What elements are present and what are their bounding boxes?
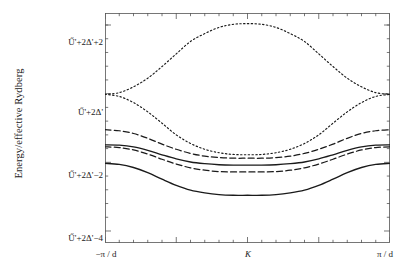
x-tick-label: π / d xyxy=(362,250,408,259)
plot-frame xyxy=(106,14,390,243)
axis-ticks xyxy=(105,13,390,243)
band-curve xyxy=(105,94,390,154)
band-curve xyxy=(105,24,390,95)
band-curve xyxy=(105,163,390,195)
band-curve xyxy=(105,145,390,165)
band-structure-plot xyxy=(105,13,390,243)
x-tick-label: K xyxy=(222,250,274,259)
band-structure-figure: Energy/effective Rydberg Ű'+2Δ'+2 Ű'+2Δ'… xyxy=(0,0,410,275)
axis-frame xyxy=(106,14,390,243)
plot-area xyxy=(105,13,390,243)
band-curves xyxy=(105,24,390,196)
x-tick-label: −π / d xyxy=(80,250,132,259)
